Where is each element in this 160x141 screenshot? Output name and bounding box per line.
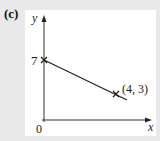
x-axis-label: x bbox=[147, 120, 154, 134]
origin-label: 0 bbox=[36, 122, 42, 136]
y-intercept-label: 7 bbox=[31, 53, 38, 68]
y-axis-label: y bbox=[31, 11, 38, 25]
line-graph: y x 0 7 (4, 3) bbox=[0, 0, 160, 141]
x-axis bbox=[42, 118, 152, 123]
point-label: (4, 3) bbox=[122, 82, 148, 96]
y-axis-arrow-icon bbox=[42, 15, 47, 22]
y-axis bbox=[42, 15, 47, 122]
graph-line bbox=[44, 60, 127, 100]
